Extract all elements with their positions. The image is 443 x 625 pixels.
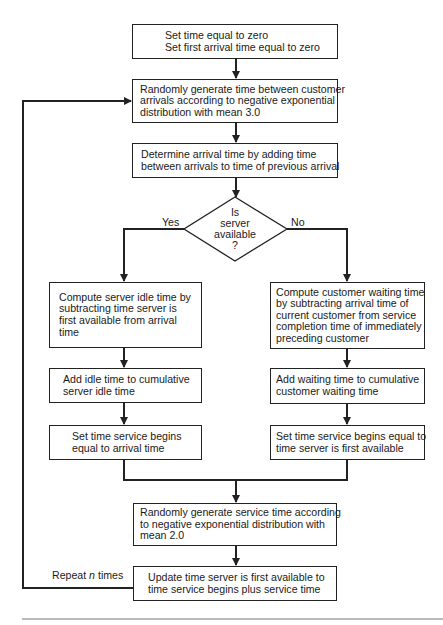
add-idle-line-2: server idle time — [63, 386, 194, 398]
update-line-2: time service begins plus service time — [148, 584, 329, 596]
set-begins-left-line-2: equal to arrival time — [72, 443, 194, 455]
waiting-line-2: by subtracting arrival time of — [276, 298, 417, 310]
service-line-3: mean 2.0 — [140, 530, 329, 542]
compute-idle-time-box: Compute server idle time by subtracting … — [49, 282, 202, 348]
repeat-prefix: Repeat — [52, 569, 89, 581]
set-begins-right-line-2: time server is first available — [276, 443, 417, 455]
compute-waiting-time-box: Compute customer waiting time by subtrac… — [270, 282, 425, 349]
service-line-1: Randomly generate service time according — [140, 507, 329, 519]
add-waiting-time-box: Add waiting time to cumulative customer … — [270, 368, 425, 404]
update-server-box: Update time server is first available to… — [133, 566, 337, 601]
set-service-begins-available-box: Set time service begins equal to time se… — [270, 425, 425, 460]
add-idle-line-1: Add idle time to cumulative — [63, 374, 194, 386]
determine-arrival-line-1: Determine arrival time by adding time — [141, 149, 330, 161]
start-line-2: Set first arrival time equal to zero — [165, 42, 330, 54]
yes-label: Yes — [162, 216, 179, 228]
idle-line-3: first available from arrival — [59, 315, 194, 327]
add-idle-time-box: Add idle time to cumulative server idle … — [49, 368, 202, 403]
add-waiting-line-2: customer waiting time — [276, 386, 417, 398]
decision-line-4: ? — [195, 240, 275, 251]
start-line-1: Set time equal to zero — [165, 30, 330, 42]
set-begins-right-line-1: Set time service begins equal to — [276, 431, 417, 443]
set-begins-left-line-1: Set time service begins — [72, 431, 194, 443]
set-service-begins-arrival-box: Set time service begins equal to arrival… — [49, 425, 202, 460]
decision-text: Is server available ? — [195, 207, 275, 251]
update-line-1: Update time server is first available to — [148, 572, 329, 584]
idle-line-4: time — [59, 327, 194, 339]
generate-interarrival-line-3: distribution with mean 3.0 — [140, 107, 330, 119]
start-box: Set time equal to zero Set first arrival… — [132, 24, 338, 59]
waiting-line-5: preceding customer — [276, 333, 417, 345]
determine-arrival-line-2: between arrivals to time of previous arr… — [141, 161, 330, 173]
determine-arrival-box: Determine arrival time by adding time be… — [132, 143, 338, 178]
generate-service-time-box: Randomly generate service time according… — [133, 503, 337, 546]
no-label: No — [291, 216, 305, 228]
repeat-suffix: times — [95, 569, 123, 581]
generate-interarrival-box: Randomly generate time between customer … — [132, 79, 338, 123]
repeat-label: Repeat n times — [52, 569, 123, 581]
